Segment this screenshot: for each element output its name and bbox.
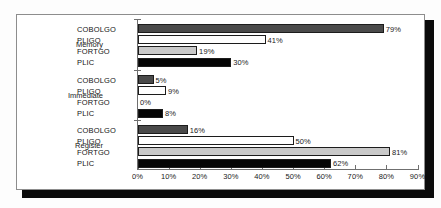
bar-value-label: 41%	[268, 36, 283, 45]
bar-memory-cobolgo	[138, 24, 384, 33]
x-axis-tick-label: 50%	[285, 172, 300, 181]
bar-register-cobolgo	[138, 125, 188, 134]
x-axis-tick-label: 90%	[410, 172, 425, 181]
x-axis-tick-label: 40%	[254, 172, 269, 181]
x-axis-tick-label: 20%	[192, 172, 207, 181]
y-axis-group-tick	[134, 19, 141, 20]
bar-immediate-pligo	[138, 86, 166, 95]
series-label-plic: PLIC	[77, 58, 134, 67]
y-axis-group-tick	[134, 120, 141, 121]
bar-value-label: 79%	[386, 25, 401, 34]
y-axis-group-tick	[134, 70, 141, 71]
x-axis-tick-label: 10%	[161, 172, 176, 181]
bar-value-label: 9%	[168, 87, 179, 96]
x-axis-tick	[355, 165, 356, 170]
series-label-pligo: PLIGO	[77, 87, 134, 96]
series-label-fortgo: FORTGO	[77, 148, 134, 157]
x-axis-tick-label: 0%	[132, 172, 143, 181]
x-axis-tick	[418, 165, 419, 170]
series-label-pligo: PLIGO	[77, 36, 134, 45]
bar-value-label: 16%	[190, 126, 205, 135]
series-label-cobolgo: COBOLGO	[77, 76, 134, 85]
chart-screenshot: 0%10%20%30%40%50%60%70%80%90%MemoryCOBOL…	[0, 0, 441, 208]
x-axis-line	[137, 169, 418, 170]
bar-immediate-cobolgo	[138, 75, 154, 84]
bar-value-label: 81%	[392, 148, 407, 157]
bar-value-label: 0%	[140, 98, 151, 107]
bar-memory-pligo	[138, 35, 266, 44]
series-label-fortgo: FORTGO	[77, 47, 134, 56]
bar-memory-fortgo	[138, 46, 197, 55]
bar-value-label: 8%	[165, 109, 176, 118]
bar-value-label: 50%	[296, 137, 311, 146]
bar-register-plic	[138, 159, 331, 168]
x-axis-tick	[386, 165, 387, 170]
series-label-cobolgo: COBOLGO	[77, 25, 134, 34]
series-label-plic: PLIC	[77, 109, 134, 118]
series-label-cobolgo: COBOLGO	[77, 126, 134, 135]
series-label-pligo: PLIGO	[77, 137, 134, 146]
x-axis-tick-label: 70%	[348, 172, 363, 181]
bar-immediate-plic	[138, 109, 163, 118]
bar-register-pligo	[138, 136, 294, 145]
bar-register-fortgo	[138, 147, 390, 156]
x-axis-tick-label: 60%	[317, 172, 332, 181]
series-label-fortgo: FORTGO	[77, 98, 134, 107]
plot-area: 0%10%20%30%40%50%60%70%80%90%MemoryCOBOL…	[17, 15, 426, 191]
x-axis-tick-label: 30%	[223, 172, 238, 181]
bar-value-label: 19%	[199, 47, 214, 56]
bar-value-label: 62%	[333, 159, 348, 168]
bar-memory-plic	[138, 58, 231, 67]
x-axis-tick-label: 80%	[379, 172, 394, 181]
bar-value-label: 30%	[233, 58, 248, 67]
bar-value-label: 5%	[156, 76, 167, 85]
series-label-plic: PLIC	[77, 159, 134, 168]
chart-frame: 0%10%20%30%40%50%60%70%80%90%MemoryCOBOL…	[16, 14, 425, 190]
